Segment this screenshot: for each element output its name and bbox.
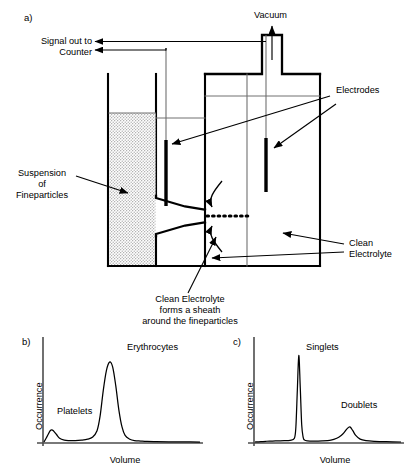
figure-root: a) Vacuum Signal out to Counter Electrod… — [0, 0, 410, 475]
chart-c-annotation-doublets: Doublets — [341, 400, 377, 411]
chart-c-annotation-singlets: Singlets — [306, 342, 339, 353]
chart-c-curve — [255, 356, 401, 442]
chart-c-xlabel: Volume — [290, 455, 380, 466]
chart-c-ylabel: Occurrence — [245, 383, 255, 431]
